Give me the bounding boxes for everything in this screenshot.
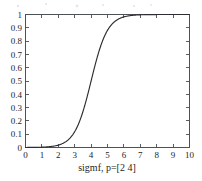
y-tick-label: 0	[18, 143, 23, 153]
x-axis-title: sigmf, p=[2 4]	[78, 162, 136, 173]
y-axis-tick-labels: 00.10.20.30.40.50.60.70.80.91	[11, 10, 23, 153]
x-axis-tick-labels: 012345678910	[23, 150, 194, 160]
x-tick-label: 8	[154, 150, 159, 160]
sigmoid-plot: 00.10.20.30.40.50.60.70.80.91 0123456789…	[0, 0, 202, 181]
x-tick-label: 1	[40, 150, 45, 160]
y-tick-label: 0.6	[11, 63, 23, 73]
y-tick-label: 0.4	[11, 90, 23, 100]
y-tick-label: 0.8	[11, 36, 23, 46]
y-tick-label: 1	[18, 10, 23, 20]
y-tick-label: 0.9	[11, 23, 23, 33]
plot-background	[25, 14, 190, 148]
x-tick-label: 10	[185, 150, 195, 160]
y-tick-label: 0.2	[11, 116, 22, 126]
x-tick-label: 9	[171, 150, 176, 160]
y-tick-label: 0.1	[11, 129, 22, 139]
x-tick-label: 6	[122, 150, 127, 160]
x-tick-label: 3	[72, 150, 77, 160]
figure-container: 00.10.20.30.40.50.60.70.80.91 0123456789…	[0, 0, 202, 181]
x-tick-label: 5	[105, 150, 110, 160]
y-tick-label: 0.7	[11, 50, 23, 60]
x-tick-label: 2	[56, 150, 61, 160]
x-tick-label: 0	[23, 150, 28, 160]
y-tick-label: 0.5	[11, 76, 23, 86]
y-tick-label: 0.3	[11, 103, 23, 113]
x-tick-label: 4	[89, 150, 94, 160]
x-tick-label: 7	[138, 150, 143, 160]
